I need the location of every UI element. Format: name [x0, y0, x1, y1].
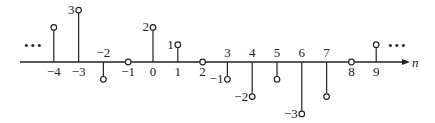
stem: 6−3: [284, 45, 306, 121]
axis-label: n: [412, 55, 419, 70]
tick-label: 1: [175, 64, 182, 79]
stem-marker-icon: [175, 42, 181, 48]
stem: 11: [167, 37, 181, 79]
stem: 8: [348, 59, 355, 79]
tick-label: 9: [373, 64, 380, 79]
stem-marker-icon: [76, 7, 82, 13]
tick-label: −2: [96, 45, 110, 60]
tick-label: 0: [150, 64, 157, 79]
stem-marker-icon: [150, 25, 156, 31]
stem: 02: [143, 19, 157, 79]
tick-label: −4: [47, 64, 61, 79]
stem: −2: [96, 45, 110, 82]
stem: 9: [373, 42, 380, 79]
stem-marker-icon: [249, 94, 255, 100]
value-label: −3: [284, 106, 298, 121]
continuation-right: •••: [388, 38, 408, 53]
stem: 3−1: [210, 45, 231, 86]
stem: 5: [274, 45, 281, 82]
stem-marker-icon: [101, 77, 107, 83]
stem-marker-icon: [324, 94, 330, 100]
tick-label: 8: [348, 64, 355, 79]
stem-marker-icon: [373, 42, 379, 48]
value-label: −1: [210, 71, 224, 86]
value-label: 2: [143, 19, 150, 34]
tick-label: 6: [299, 45, 306, 60]
tick-label: −3: [72, 64, 86, 79]
stem-marker-icon: [274, 77, 280, 83]
tick-label: 2: [199, 64, 206, 79]
stem-plot: n −4−33−2−1021123−14−256−3789 ••• •••: [0, 0, 435, 123]
value-label: 1: [167, 37, 174, 52]
stem-marker-icon: [51, 25, 57, 31]
stem: 2: [199, 59, 206, 79]
stem-marker-icon: [225, 77, 231, 83]
stem: 7: [323, 45, 330, 99]
value-label: 3: [68, 2, 75, 17]
stem-marker-icon: [299, 111, 305, 117]
continuation-left: •••: [24, 38, 44, 53]
tick-label: 3: [224, 45, 231, 60]
stem: −33: [68, 2, 85, 79]
stem: 4−2: [234, 45, 256, 104]
stem: −4: [47, 25, 61, 79]
tick-label: −1: [121, 64, 135, 79]
tick-label: 5: [274, 45, 281, 60]
axis-arrow-icon: [402, 59, 410, 65]
tick-label: 7: [323, 45, 330, 60]
tick-label: 4: [249, 45, 256, 60]
value-label: −2: [234, 89, 248, 104]
